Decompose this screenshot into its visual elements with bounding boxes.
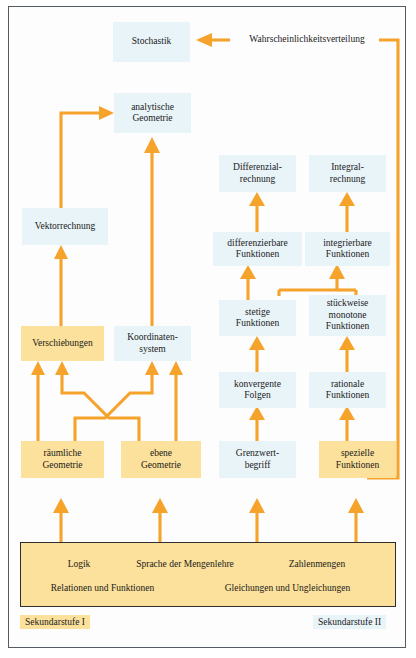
legend-sekundarstufe-2-label: Sekundarstufe II — [318, 617, 381, 627]
node-integrierbare-funktionen-line2: Funktionen — [326, 249, 369, 261]
node-grenzwertbegriff-line2: begriff — [245, 460, 271, 472]
node-stueckweise-monotone-funktionen[interactable]: stückweise monotone Funktionen — [309, 295, 386, 336]
node-ebene-geometrie[interactable]: ebene Geometrie — [121, 441, 201, 478]
arrow-ebene-to-verschiebungen — [55, 361, 139, 441]
arrow-konvergente-to-stetige — [249, 336, 265, 372]
arrow-bracket-to-integrierbare — [279, 264, 356, 296]
node-wahrscheinlichkeitsverteilung[interactable]: Wahrscheinlichkeitsverteilung — [232, 28, 382, 52]
node-differenzialrechnung-line2: rechnung — [240, 174, 275, 186]
arrow-differenzierbare-to-differenzialrechnung — [249, 192, 265, 232]
arrow-vektorrechnung-to-analytische — [61, 106, 114, 208]
arrow-base-to-raeumliche — [53, 498, 69, 542]
node-analytische-geometrie-line1: analytische — [131, 102, 174, 114]
node-integrierbare-funktionen-line1: integrierbare — [323, 238, 372, 250]
legend-sekundarstufe-2: Sekundarstufe II — [313, 615, 386, 629]
node-differenzierbare-funktionen-line1: differenzierbare — [227, 238, 287, 250]
node-rationale-funktionen[interactable]: rationale Funktionen — [309, 372, 386, 408]
foundation-relationen-funktionen: Relationen und Funktionen — [29, 583, 176, 593]
node-integralrechnung-line1: Integral- — [331, 162, 364, 174]
node-rationale-funktionen-line1: rationale — [331, 379, 364, 391]
node-stetige-funktionen[interactable]: stetige Funktionen — [219, 300, 296, 336]
arrow-verschiebungen-to-vektorrechnung — [54, 245, 68, 326]
arrow-raeumliche-to-koordinatensystem — [75, 361, 159, 441]
arrow-ebene-to-koordinatensystem — [169, 361, 183, 441]
foundation-sprache-mengenlehre: Sprache der Mengenlehre — [122, 559, 248, 569]
node-raeumliche-geometrie-line1: räumliche — [44, 448, 82, 460]
node-stochastik[interactable]: Stochastik — [113, 22, 190, 62]
foundation-box[interactable] — [20, 542, 396, 607]
node-rationale-funktionen-line2: Funktionen — [326, 390, 369, 402]
arrow-base-to-spezielle — [348, 498, 364, 542]
node-raeumliche-geometrie-line2: Geometrie — [42, 460, 82, 472]
node-ebene-geometrie-line2: Geometrie — [141, 460, 181, 472]
node-grenzwertbegriff[interactable]: Grenzwert- begriff — [219, 441, 296, 478]
arrow-rationale-to-stueckweise — [339, 336, 355, 372]
node-grenzwertbegriff-line1: Grenzwert- — [236, 448, 279, 460]
node-raeumliche-geometrie[interactable]: räumliche Geometrie — [21, 441, 104, 478]
arrow-spezielle-to-rationale — [339, 406, 355, 441]
node-stetige-funktionen-line2: Funktionen — [236, 318, 279, 330]
node-analytische-geometrie[interactable]: analytische Geometrie — [114, 93, 191, 133]
node-differenzialrechnung-line1: Differenzial- — [233, 162, 282, 174]
node-stueckweise-monotone-funktionen-line3: Funktionen — [326, 321, 369, 333]
node-konvergente-folgen[interactable]: konvergente Folgen — [219, 372, 296, 408]
node-spezielle-funktionen-line2: Funktionen — [336, 460, 379, 472]
arrow-base-to-ebene — [152, 498, 168, 542]
arrow-integrierbare-to-integralrechnung — [339, 192, 355, 232]
node-integralrechnung-line2: rechnung — [330, 174, 365, 186]
node-verschiebungen[interactable]: Verschiebungen — [21, 326, 104, 361]
node-integralrechnung[interactable]: Integral- rechnung — [309, 155, 386, 192]
arrow-wahrscheinlichkeit-to-stochastik — [196, 33, 230, 47]
node-integrierbare-funktionen[interactable]: integrierbare Funktionen — [305, 232, 390, 266]
node-vektorrechnung-label: Vektorrechnung — [35, 221, 96, 233]
node-differenzierbare-funktionen[interactable]: differenzierbare Funktionen — [213, 232, 302, 266]
node-koordinatensystem[interactable]: Koordinaten- system — [114, 326, 191, 361]
node-stueckweise-monotone-funktionen-line1: stückweise — [327, 298, 369, 310]
arrow-koordinatensystem-to-analytische — [144, 137, 160, 326]
legend-sekundarstufe-1: Sekundarstufe I — [20, 615, 90, 629]
node-konvergente-folgen-line2: Folgen — [244, 390, 270, 402]
arrow-raeumliche-to-verschiebungen — [31, 361, 45, 441]
legend-sekundarstufe-1-label: Sekundarstufe I — [25, 617, 85, 627]
diagram-page: Stochastik Wahrscheinlichkeitsverteilung… — [0, 0, 416, 658]
node-konvergente-folgen-line1: konvergente — [234, 379, 281, 391]
node-verschiebungen-label: Verschiebungen — [32, 338, 93, 350]
foundation-gleichungen-ungleichungen: Gleichungen und Ungleichungen — [205, 583, 370, 593]
node-koordinatensystem-line1: Koordinaten- — [127, 332, 178, 344]
foundation-zahlenmengen: Zahlenmengen — [272, 559, 362, 569]
arrow-grenzwert-to-konvergente — [249, 406, 265, 441]
node-analytische-geometrie-line2: Geometrie — [132, 113, 172, 125]
arrow-stetige-to-differenzierbare — [240, 265, 256, 300]
node-wahrscheinlichkeitsverteilung-label: Wahrscheinlichkeitsverteilung — [249, 34, 364, 46]
node-stochastik-label: Stochastik — [132, 36, 172, 48]
foundation-logik: Logik — [39, 559, 119, 569]
node-ebene-geometrie-line1: ebene — [150, 448, 172, 460]
node-stueckweise-monotone-funktionen-line2: monotone — [329, 310, 367, 322]
node-vektorrechnung[interactable]: Vektorrechnung — [22, 208, 108, 245]
node-stetige-funktionen-line1: stetige — [245, 307, 270, 319]
node-differenzierbare-funktionen-line2: Funktionen — [236, 249, 279, 261]
node-spezielle-funktionen[interactable]: spezielle Funktionen — [319, 441, 396, 478]
arrow-base-to-grenzwert — [249, 498, 265, 542]
node-differenzialrechnung[interactable]: Differenzial- rechnung — [219, 155, 296, 192]
node-spezielle-funktionen-line1: spezielle — [341, 448, 374, 460]
node-koordinatensystem-line2: system — [139, 344, 165, 356]
